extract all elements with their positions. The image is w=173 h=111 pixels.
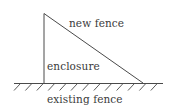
label-new-fence: new fence: [69, 18, 124, 29]
label-enclosure: enclosure: [47, 61, 100, 72]
fence-enclosure-diagram: new fence enclosure existing fence: [0, 0, 173, 111]
ground-hatch-marks: [14, 84, 157, 91]
ground-group: [14, 84, 163, 91]
label-existing-fence: existing fence: [47, 94, 123, 105]
